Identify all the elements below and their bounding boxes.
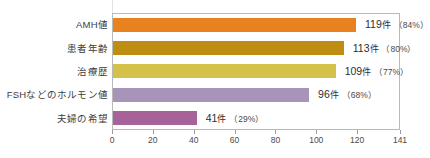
x-axis-tick xyxy=(400,130,401,134)
bar-wrapper xyxy=(113,83,309,106)
x-axis-tick-label: 100 xyxy=(309,135,323,145)
x-axis-tick xyxy=(316,130,317,134)
bar-value-label: 113件 （80%） xyxy=(353,42,417,55)
x-axis-tick-label: 120 xyxy=(350,135,364,145)
bar-value-number: 109 xyxy=(345,65,363,77)
bar-wrapper xyxy=(113,13,356,36)
bar-rows: AMH値119件 （84%）患者年齢113件 （80%）治療歴109件 （77%… xyxy=(0,13,430,130)
bar-value-label: 109件 （77%） xyxy=(345,65,409,78)
horizontal-bar-chart: AMH値119件 （84%）患者年齢113件 （80%）治療歴109件 （77%… xyxy=(0,0,430,158)
x-axis-tick xyxy=(357,130,358,134)
x-axis-tick-label: 0 xyxy=(110,135,115,145)
x-axis-tick xyxy=(153,130,154,134)
bar-value-unit: 件 xyxy=(362,67,371,77)
bar-wrapper xyxy=(113,36,344,59)
bar-row: 夫婦の希望41件 （29%） xyxy=(0,107,430,130)
x-axis-tick-label: 40 xyxy=(189,135,198,145)
bar-percent-label: （84%） xyxy=(394,20,429,30)
x-axis-tick-label: 80 xyxy=(271,135,280,145)
bar-row: FSHなどのホルモン値96件 （68%） xyxy=(0,83,430,106)
bar-value-number: 119 xyxy=(365,18,382,30)
bar-percent-label: （29%） xyxy=(229,114,264,124)
x-axis-tick xyxy=(112,130,113,134)
bar-wrapper xyxy=(113,60,336,83)
category-label: 患者年齢 xyxy=(0,43,108,54)
bar xyxy=(113,41,344,55)
x-axis-tick-label: 20 xyxy=(148,135,157,145)
bar-wrapper xyxy=(113,107,197,130)
x-axis-tick xyxy=(194,130,195,134)
bar-row: 患者年齢113件 （80%） xyxy=(0,36,430,59)
bar-percent-label: （80%） xyxy=(381,44,416,54)
category-label: FSHなどのホルモン値 xyxy=(0,89,108,100)
bar-value-number: 41 xyxy=(206,112,218,124)
bar-percent-label: （68%） xyxy=(342,90,377,100)
category-label: AMH値 xyxy=(0,19,108,30)
x-axis-tick-label: 141 xyxy=(393,135,407,145)
bar-value-number: 113 xyxy=(353,42,370,54)
category-label: 治療歴 xyxy=(0,66,108,77)
bar xyxy=(113,18,356,32)
bar xyxy=(113,88,309,102)
bar-value-unit: 件 xyxy=(217,114,226,124)
category-label: 夫婦の希望 xyxy=(0,113,108,124)
bar-value-label: 119件 （84%） xyxy=(365,18,429,31)
x-axis-tick-label: 60 xyxy=(230,135,239,145)
bar-value-unit: 件 xyxy=(382,20,391,30)
bar xyxy=(113,111,197,125)
x-axis: 020406080100120141 xyxy=(112,130,400,156)
bar xyxy=(113,64,336,78)
bar-percent-label: （77%） xyxy=(374,67,409,77)
bar-value-unit: 件 xyxy=(330,90,339,100)
bar-value-unit: 件 xyxy=(370,44,379,54)
bar-row: AMH値119件 （84%） xyxy=(0,13,430,36)
x-axis-tick xyxy=(275,130,276,134)
bar-value-label: 41件 （29%） xyxy=(206,112,265,125)
bar-row: 治療歴109件 （77%） xyxy=(0,60,430,83)
bar-value-number: 96 xyxy=(318,88,330,100)
bar-value-label: 96件 （68%） xyxy=(318,88,377,101)
scan-artifact xyxy=(112,0,113,13)
x-axis-tick xyxy=(235,130,236,134)
